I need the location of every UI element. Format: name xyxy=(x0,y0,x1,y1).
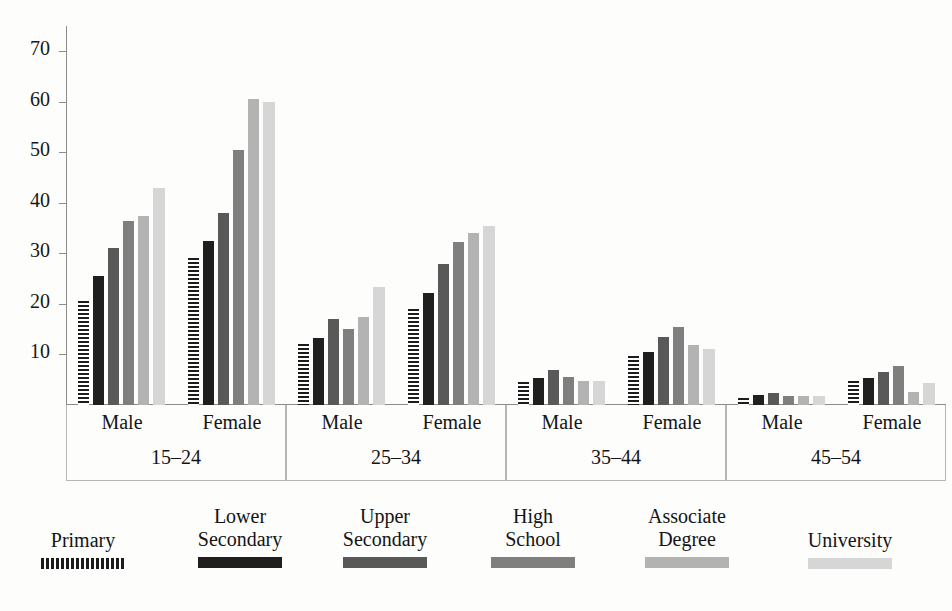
bars-layer xyxy=(66,26,946,405)
y-axis-tick xyxy=(59,203,66,204)
y-axis-tick-label: 30 xyxy=(6,239,50,262)
bar xyxy=(483,226,495,405)
bar xyxy=(813,396,825,405)
bar xyxy=(548,370,560,405)
bar xyxy=(563,377,575,405)
y-axis-tick-label: 40 xyxy=(6,189,50,212)
bar xyxy=(343,329,355,405)
legend-label: University xyxy=(775,529,925,552)
bar xyxy=(798,396,810,405)
plot-area: 10203040506070 xyxy=(66,26,946,405)
x-axis: MaleFemale15–24MaleFemale25–34MaleFemale… xyxy=(66,405,946,481)
y-axis-tick xyxy=(59,253,66,254)
clipped-title xyxy=(0,0,952,10)
chart-figure: 10203040506070 MaleFemale15–24MaleFemale… xyxy=(0,0,952,611)
bar xyxy=(893,366,905,405)
x-axis-group: MaleFemale35–44 xyxy=(506,405,726,481)
bar xyxy=(373,287,385,405)
y-axis-tick xyxy=(59,152,66,153)
bar xyxy=(923,383,935,405)
x-axis-subgroup-label: Female xyxy=(177,411,287,434)
bar xyxy=(248,99,260,405)
y-axis-tick-label: 60 xyxy=(6,88,50,111)
legend-label: Upper Secondary xyxy=(310,505,460,551)
legend-label: High School xyxy=(468,505,598,551)
legend-item[interactable]: Upper Secondary xyxy=(310,505,460,568)
bar xyxy=(108,248,120,405)
legend-swatch-lower-secondary xyxy=(198,557,282,568)
x-axis-group: MaleFemale45–54 xyxy=(726,405,946,481)
legend-label: Primary xyxy=(18,529,148,552)
bar xyxy=(703,349,715,405)
legend-label: Lower Secondary xyxy=(165,505,315,551)
legend-swatch-university xyxy=(808,558,892,569)
bar xyxy=(468,233,480,405)
legend-label: Associate Degree xyxy=(612,505,762,551)
bar xyxy=(643,352,655,405)
bar xyxy=(578,381,590,405)
legend-item[interactable]: High School xyxy=(468,505,598,568)
bar xyxy=(753,395,765,405)
bar xyxy=(783,396,795,405)
y-axis-tick xyxy=(59,102,66,103)
bar xyxy=(908,392,920,405)
bar xyxy=(438,264,450,405)
y-axis-tick xyxy=(59,354,66,355)
bar xyxy=(298,344,310,405)
y-axis-tick-label: 10 xyxy=(6,340,50,363)
bar xyxy=(658,337,670,405)
x-axis-group-label: 15–24 xyxy=(67,446,285,469)
chart-legend: PrimaryLower SecondaryUpper SecondaryHig… xyxy=(0,495,952,611)
bar xyxy=(878,372,890,405)
bar xyxy=(233,150,245,405)
bar xyxy=(93,276,105,405)
x-axis-group: MaleFemale25–34 xyxy=(286,405,506,481)
bar xyxy=(153,188,165,405)
legend-item[interactable]: Lower Secondary xyxy=(165,505,315,568)
bar xyxy=(408,309,420,405)
x-axis-subgroup-label: Female xyxy=(397,411,507,434)
x-axis-subgroup-label: Female xyxy=(837,411,947,434)
legend-swatch-upper-secondary xyxy=(343,557,427,568)
bar xyxy=(203,241,215,405)
x-axis-subgroup-label: Male xyxy=(67,411,177,434)
y-axis-tick xyxy=(59,51,66,52)
bar xyxy=(123,221,135,405)
bar xyxy=(848,381,860,405)
legend-swatch-high-school xyxy=(491,557,575,568)
legend-swatch-primary xyxy=(41,558,125,569)
bar xyxy=(533,378,545,405)
x-axis-subgroup-label: Female xyxy=(617,411,727,434)
bar xyxy=(673,327,685,405)
bar xyxy=(188,258,200,405)
x-axis-subgroup-label: Male xyxy=(727,411,837,434)
y-axis-tick-label: 20 xyxy=(6,290,50,313)
x-axis-subgroup-label: Male xyxy=(507,411,617,434)
y-axis-tick-label: 70 xyxy=(6,37,50,60)
y-axis-tick-label: 50 xyxy=(6,138,50,161)
x-axis-group-label: 35–44 xyxy=(507,446,725,469)
x-axis-group-label: 25–34 xyxy=(287,446,505,469)
bar xyxy=(313,338,325,405)
bar xyxy=(863,378,875,405)
legend-item[interactable]: Associate Degree xyxy=(612,505,762,568)
bar xyxy=(453,242,465,405)
y-axis-tick xyxy=(59,304,66,305)
bar xyxy=(688,345,700,405)
x-axis-group: MaleFemale15–24 xyxy=(66,405,286,481)
bar xyxy=(218,213,230,405)
bar xyxy=(138,216,150,406)
bar xyxy=(593,381,605,405)
legend-item[interactable]: University xyxy=(775,529,925,569)
x-axis-subgroup-label: Male xyxy=(287,411,397,434)
legend-swatch-associate-degree xyxy=(645,557,729,568)
bar xyxy=(423,293,435,405)
bar xyxy=(628,356,640,405)
bar xyxy=(263,102,275,405)
bar xyxy=(78,301,90,405)
legend-item[interactable]: Primary xyxy=(18,529,148,569)
x-axis-group-label: 45–54 xyxy=(727,446,945,469)
bar xyxy=(768,393,780,405)
bar xyxy=(328,319,340,405)
bar xyxy=(518,382,530,405)
